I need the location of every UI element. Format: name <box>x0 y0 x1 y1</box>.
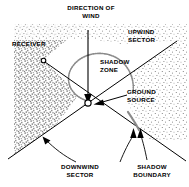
downwind-sector-leader <box>43 137 77 163</box>
diagram-canvas <box>0 0 189 187</box>
ground-source-point <box>85 100 91 106</box>
receiver-point <box>41 58 46 63</box>
shadow-zone-diagram: DIRECTION OF WIND UPWIND SECTOR RECEIVER… <box>0 0 189 187</box>
